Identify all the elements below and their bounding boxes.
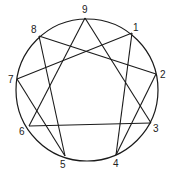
enneagram-diagram: 912345678 — [0, 0, 173, 185]
point-label-2: 2 — [160, 69, 166, 80]
point-label-5: 5 — [60, 159, 66, 170]
outer-circle — [16, 19, 158, 161]
point-label-1: 1 — [133, 22, 139, 33]
edge-6-9 — [29, 18, 85, 126]
point-labels: 912345678 — [8, 4, 166, 170]
point-label-9: 9 — [82, 4, 88, 15]
edge-9-3 — [85, 18, 151, 123]
edge-3-6 — [29, 123, 151, 126]
edge-7-1 — [17, 33, 132, 79]
point-label-3: 3 — [153, 123, 159, 134]
point-label-8: 8 — [31, 24, 37, 35]
edge-1-4 — [116, 33, 132, 155]
point-label-7: 7 — [8, 74, 14, 85]
point-label-4: 4 — [113, 158, 119, 169]
point-label-6: 6 — [19, 126, 25, 137]
edge-4-2 — [116, 74, 156, 155]
edge-8-5 — [39, 36, 65, 156]
